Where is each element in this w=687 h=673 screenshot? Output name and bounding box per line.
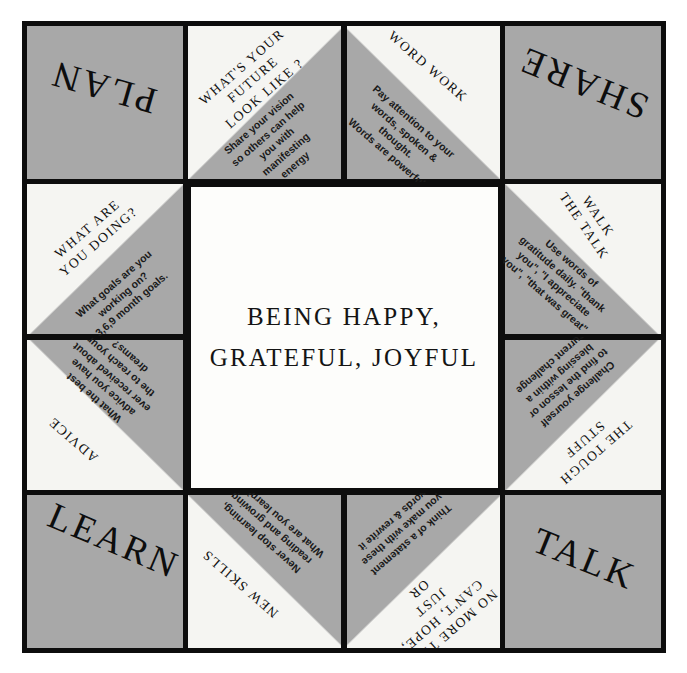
corner-cell-talk[interactable]: TALK [503,493,662,649]
corner-label-plan: PLAN [45,52,161,123]
center-line-2: GRATEFUL, JOYFUL [210,337,479,378]
flap-cell-the-tough-stuff[interactable]: THE TOUGH STUFF Challenge yourself to fi… [503,337,662,493]
center-square: BEING HAPPY, GRATEFUL, JOYFUL [186,182,503,493]
center-line-1: BEING HAPPY, [247,296,441,337]
flap-cell-advice[interactable]: ADVICE What the best advice you have eve… [27,337,186,493]
corner-label-share: SHARE [511,38,653,129]
corner-label-learn: LEARN [42,493,185,587]
flap-cell-future[interactable]: WHAT'S YOUR FUTURE LOOK LIKE ? Share you… [186,26,345,182]
corner-cell-share[interactable]: SHARE [503,26,662,182]
flap-cell-word-work[interactable]: WORD WORK Pay attention to your words, s… [344,26,503,182]
corner-cell-learn[interactable]: LEARN [27,493,186,649]
fortune-teller-board: PLAN WHAT'S YOUR FUTURE LOOK LIKE ? Shar… [22,21,666,653]
flap-cell-no-more[interactable]: NO MORE TRY, CAN'T, HOPE, JUST OR Think … [344,493,503,649]
corner-cell-plan[interactable]: PLAN [27,26,186,182]
flap-cell-what-are-you-doing[interactable]: WHAT ARE YOU DOING? What goals are you w… [27,182,186,338]
corner-label-talk: TALK [526,518,642,598]
flap-cell-walk-the-talk[interactable]: WALK THE TALK Use words of gratitude dai… [503,182,662,338]
fortune-teller-page: PLAN WHAT'S YOUR FUTURE LOOK LIKE ? Shar… [0,0,687,673]
flap-cell-new-skills[interactable]: NEW SKILLS Never stop learning, reading … [186,493,345,649]
